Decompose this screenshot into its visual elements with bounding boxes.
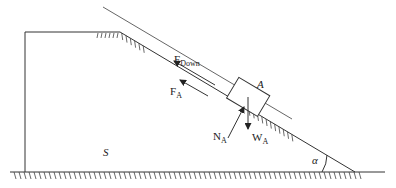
label-angle-alpha: α (312, 154, 318, 166)
label-f-down: FDown (174, 53, 200, 68)
normal-force-arrow (228, 107, 244, 138)
support-body (25, 32, 355, 172)
ground-hatching (14, 172, 361, 179)
angle-arc (322, 155, 327, 172)
label-w-a: WA (252, 131, 268, 146)
label-block-a: A (256, 78, 264, 90)
ground (10, 172, 385, 179)
label-f-a: FA (170, 85, 182, 100)
top-hatching (97, 33, 118, 38)
inclined-plane-diagram: FDown FA A NA WA S α (0, 0, 396, 188)
label-support-s: S (103, 146, 109, 158)
incline-hatching (122, 33, 293, 141)
label-n-a: NA (213, 130, 227, 145)
